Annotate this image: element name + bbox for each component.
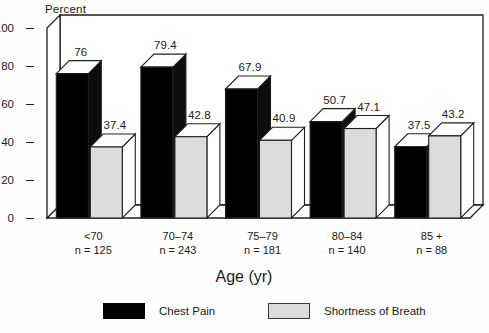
bar-value-label: 40.9 [273,112,296,124]
x-axis-label-count: n = 125 [75,244,112,258]
y-axis-tick-mark [26,218,34,219]
y-axis-tick-label: 80 [1,60,14,72]
chart-screenshot: Percent 020406080100 7637.479.442.867.94… [0,0,489,333]
y-axis-tick-label: 40 [1,136,14,148]
bar-value-label: 37.4 [103,119,126,131]
y-axis-tick-mark [26,28,34,29]
y-axis-tick-label: 0 [8,212,14,224]
y-axis-tick-mark [26,142,34,143]
x-axis-label-count: n = 140 [329,244,366,258]
bar-value-label: 47.1 [357,101,380,113]
y-axis-tick-label: 60 [1,98,14,110]
bar-value-label: 43.2 [442,108,465,120]
legend-swatch [268,303,310,319]
y-axis: 020406080100 [0,0,32,333]
bar-value-label: 79.4 [154,39,177,51]
bar-value-label: 76 [74,46,87,58]
x-axis-label-group: <70n = 125 [75,230,112,257]
x-axis-label-age: 80–84 [332,230,363,242]
legend-label: Shortness of Breath [324,305,426,317]
x-axis-label-age: 75–79 [247,230,278,242]
x-axis-label-age: <70 [84,230,103,242]
y-axis-tick-mark [26,104,34,105]
x-axis-label-group: 85 +n = 88 [416,230,447,257]
x-axis-label-count: n = 181 [244,244,281,258]
x-axis-label-group: 70–74n = 243 [159,230,196,257]
legend-item: Shortness of Breath [268,303,426,319]
chart-legend: Chest PainShortness of Breath [0,303,489,325]
legend-swatch [103,303,145,319]
x-axis-label-count: n = 243 [159,244,196,258]
y-axis-tick-label: 100 [0,22,14,34]
legend-item: Chest Pain [103,303,215,319]
x-axis-label-age: 70–74 [163,230,194,242]
y-axis-tick-mark [26,180,34,181]
bar-value-label: 37.5 [408,119,431,131]
bar-value-label: 67.9 [239,61,262,73]
y-axis-tick-label: 20 [1,174,14,186]
y-axis-tick-mark [26,66,34,67]
x-axis-label-age: 85 + [421,230,443,242]
x-axis-label-group: 80–84n = 140 [329,230,366,257]
bar-value-label: 42.8 [188,109,211,121]
x-axis-label-count: n = 88 [416,244,447,258]
x-axis-label-group: 75–79n = 181 [244,230,281,257]
x-axis-title: Age (yr) [216,268,273,286]
bar-value-label: 50.7 [323,94,346,106]
legend-label: Chest Pain [159,305,215,317]
